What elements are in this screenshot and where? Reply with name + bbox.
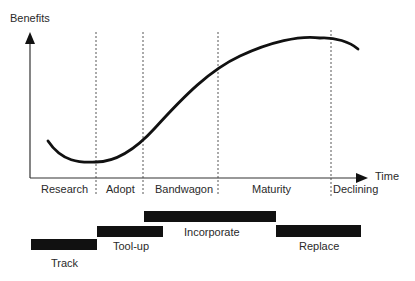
x-axis-label: Time	[375, 170, 399, 182]
activity-replace-label: Replace	[299, 240, 339, 252]
benefits-curve	[48, 37, 358, 162]
technology-lifecycle-diagram	[0, 0, 415, 281]
bar-track	[31, 239, 97, 250]
phase-research: Research	[41, 183, 88, 195]
activity-tool-up-label: Tool-up	[113, 240, 149, 252]
activity-incorporate-label: Incorporate	[184, 226, 240, 238]
bar-incorporate	[144, 211, 276, 222]
y-axis-label: Benefits	[10, 12, 50, 24]
phase-declining: Declining	[333, 183, 378, 195]
phase-maturity: Maturity	[252, 183, 291, 195]
y-axis-arrow-icon	[25, 32, 35, 44]
x-axis-arrow-icon	[356, 173, 368, 183]
phase-adopt: Adopt	[106, 183, 135, 195]
bar-tool-up	[97, 226, 163, 237]
phase-bandwagon: Bandwagon	[155, 183, 213, 195]
bar-replace	[276, 225, 361, 237]
phase-separators	[96, 30, 331, 196]
activity-track-label: Track	[51, 257, 78, 269]
